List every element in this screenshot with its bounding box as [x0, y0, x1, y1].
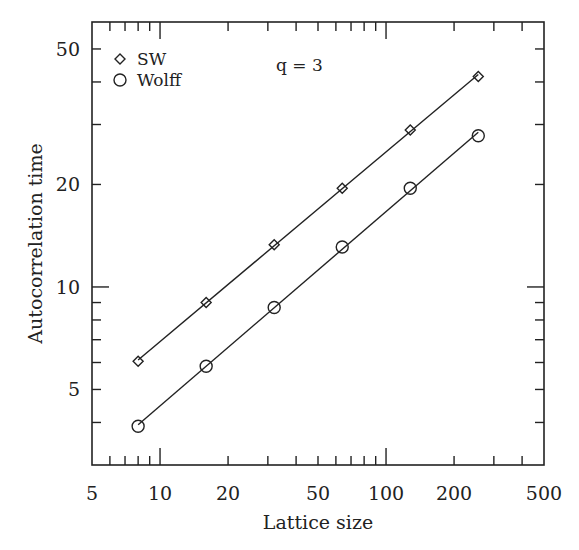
x-tick-label: 100: [368, 482, 404, 504]
chart: 5102050100200500 5102050 Lattice size Au…: [0, 0, 579, 550]
x-tick-label: 500: [526, 482, 562, 504]
y-tick-labels: 5102050: [56, 38, 80, 400]
fit-line: [138, 75, 478, 360]
circle-marker-icon: [114, 74, 126, 86]
x-tick-label: 5: [86, 482, 98, 504]
series-wolff: [132, 130, 484, 432]
y-tick-label: 5: [68, 378, 80, 400]
x-tick-label: 50: [306, 482, 330, 504]
y-axis-title: Autocorrelation time: [24, 143, 46, 344]
diamond-marker-icon: [115, 54, 125, 64]
x-tick-label: 20: [216, 482, 240, 504]
data-series: [132, 72, 484, 433]
y-tick-label: 20: [56, 173, 80, 195]
fit-line: [138, 132, 478, 424]
circle-marker-icon: [404, 182, 416, 194]
annotation-q: q = 3: [276, 55, 323, 75]
x-axis-title: Lattice size: [263, 511, 373, 533]
legend-label: Wolff: [137, 70, 183, 90]
diamond-marker-icon: [405, 125, 415, 135]
circle-marker-icon: [132, 420, 144, 432]
legend-item-wolff: Wolff: [114, 70, 183, 90]
y-tick-label: 50: [56, 38, 80, 60]
legend-label: SW: [137, 49, 167, 69]
diamond-marker-icon: [473, 72, 483, 82]
circle-marker-icon: [336, 241, 348, 253]
x-tick-label: 10: [148, 482, 172, 504]
legend-item-sw: SW: [115, 49, 167, 69]
x-tick-labels: 5102050100200500: [86, 482, 562, 504]
y-tick-label: 10: [56, 276, 80, 298]
legend: SWWolff: [114, 49, 183, 90]
series-sw: [133, 72, 483, 367]
x-tick-label: 200: [436, 482, 472, 504]
